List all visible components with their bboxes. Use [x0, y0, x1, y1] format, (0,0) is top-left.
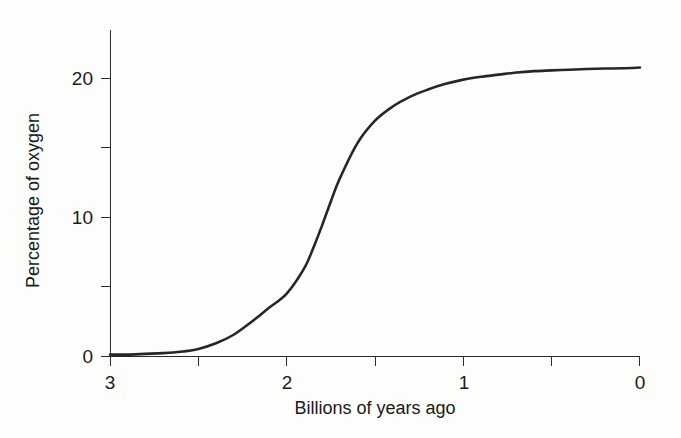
y-tick-label-20: 20 [72, 68, 93, 89]
x-tick-label-0: 0 [635, 372, 646, 393]
y-axis-title: Percentage of oxygen [23, 106, 44, 296]
x-tick-label-1: 1 [459, 372, 470, 393]
oxygen-curve [110, 68, 640, 355]
chart-canvas: 20 10 0 3 2 1 0 [0, 0, 681, 438]
y-axis-title-container: Percentage of oxygen [0, 0, 60, 438]
x-tick-label-2: 2 [282, 372, 293, 393]
x-tick-label-3: 3 [105, 372, 116, 393]
y-tick-label-0: 0 [82, 346, 93, 367]
y-tick-label-10: 10 [72, 207, 93, 228]
oxygen-history-figure: 20 10 0 3 2 1 0 Percentage of oxygen Bil… [0, 0, 681, 438]
x-axis-title: Billions of years ago [110, 398, 640, 419]
